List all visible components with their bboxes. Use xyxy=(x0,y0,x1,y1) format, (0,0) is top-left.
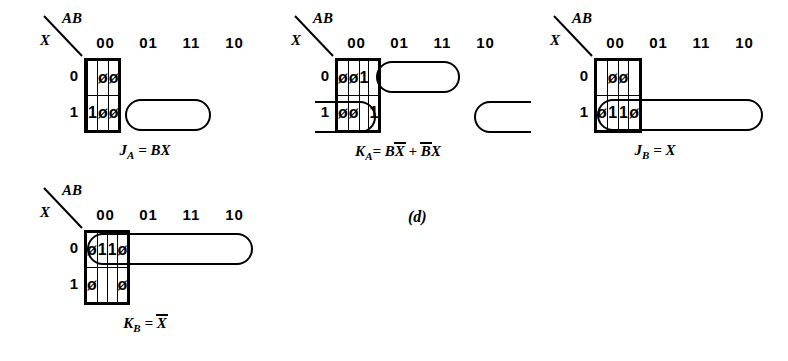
col-header-11: 11 xyxy=(421,34,464,51)
cell-r1c3[interactable]: 1 xyxy=(369,96,379,131)
col-header-00: 00 xyxy=(594,34,637,51)
cell-r1c1[interactable]: 1 xyxy=(88,96,98,131)
caption-bbar: B xyxy=(421,142,431,160)
row-header-0: 0 xyxy=(317,58,333,94)
cell-r0c0[interactable]: ø xyxy=(87,233,98,268)
row-header-1: 1 xyxy=(66,266,82,302)
row-headers-jb: 0 1 xyxy=(576,58,592,130)
cell-r0c3[interactable]: ø xyxy=(117,233,128,268)
caption-expression: = X xyxy=(649,142,675,158)
axis-corner-ja: AB X xyxy=(40,14,84,58)
caption-symbol: K xyxy=(123,315,133,331)
kmap-grid-ja: ø ø 1 ø ø xyxy=(84,58,121,133)
row-header-0: 0 xyxy=(576,58,592,94)
axis-label-ab: AB xyxy=(313,10,333,27)
cell-r0c2[interactable]: ø xyxy=(618,61,629,96)
row-header-1: 1 xyxy=(576,94,592,130)
caption-part-eq: = xyxy=(141,315,157,331)
cell-r1c0[interactable]: ø xyxy=(338,96,349,131)
col-header-11: 11 xyxy=(170,34,213,51)
caption-xbar: X xyxy=(157,314,167,332)
kmap-row: ø ø xyxy=(597,61,640,96)
cell-r0c1[interactable]: 1 xyxy=(97,233,107,268)
column-headers-ja: 00 01 11 10 xyxy=(84,34,256,51)
column-headers-jb: 00 01 11 10 xyxy=(594,34,766,51)
kmap-row: ø ø xyxy=(87,61,119,96)
kmap-row: 1 ø ø xyxy=(87,96,119,131)
cell-r1c2[interactable]: ø xyxy=(97,96,108,131)
kmap-row: ø 1 1 ø xyxy=(87,233,128,268)
cell-r0c2[interactable]: 1 xyxy=(107,233,117,268)
caption-subscript: B xyxy=(133,322,140,334)
cell-r1c2[interactable]: 1 xyxy=(618,96,629,131)
cell-r1c1[interactable]: ø xyxy=(348,96,359,131)
row-headers-ka: 0 1 xyxy=(317,58,333,130)
cell-r1c3[interactable]: ø xyxy=(117,268,128,303)
axis-label-x: X xyxy=(291,32,301,49)
caption-ja: JA = BX xyxy=(70,142,220,161)
cell-r1c2[interactable] xyxy=(107,268,117,303)
cell-r0c3[interactable] xyxy=(369,61,379,96)
caption-part-eq: = B xyxy=(372,143,394,159)
axis-label-x: X xyxy=(550,32,560,49)
col-header-01: 01 xyxy=(127,34,170,51)
col-header-01: 01 xyxy=(637,34,680,51)
column-headers-kb: 00 01 11 10 xyxy=(84,206,256,223)
group-loop-bbarx-right xyxy=(475,102,531,132)
cell-r1c3[interactable]: ø xyxy=(629,96,640,131)
kmap-row: ø 1 1 ø xyxy=(597,96,640,131)
cell-r0c3[interactable] xyxy=(629,61,640,96)
row-header-1: 1 xyxy=(66,94,82,130)
kmap-grid-kb: ø 1 1 ø ø ø xyxy=(84,230,130,305)
kmap-row: ø ø 1 xyxy=(338,96,379,131)
cell-r0c3[interactable]: ø xyxy=(108,61,119,96)
caption-xbar-1: X xyxy=(395,142,405,160)
col-header-10: 10 xyxy=(464,34,507,51)
axis-corner-ka: AB X xyxy=(291,14,335,58)
col-header-01: 01 xyxy=(378,34,421,51)
col-header-10: 10 xyxy=(213,34,256,51)
cell-r1c1[interactable]: 1 xyxy=(607,96,618,131)
kmap-grid-ka: ø ø 1 ø ø 1 xyxy=(335,58,381,133)
caption-expression: = BX xyxy=(134,142,170,158)
cell-r1c0[interactable]: ø xyxy=(597,96,608,131)
row-headers-kb: 0 1 xyxy=(66,230,82,302)
caption-ka: KA= BX + BX xyxy=(303,142,493,162)
axis-label-ab: AB xyxy=(62,182,82,199)
axis-label-ab: AB xyxy=(572,10,592,27)
caption-symbol: K xyxy=(355,143,365,159)
cell-r0c2[interactable]: 1 xyxy=(359,61,369,96)
col-header-01: 01 xyxy=(127,206,170,223)
cell-r0c2[interactable]: ø xyxy=(97,61,108,96)
group-loop-bx xyxy=(126,100,210,130)
caption-symbol: J xyxy=(635,142,643,158)
cell-r0c0[interactable]: ø xyxy=(338,61,349,96)
kmap-row: ø ø xyxy=(87,268,128,303)
col-header-11: 11 xyxy=(170,206,213,223)
col-header-00: 00 xyxy=(84,206,127,223)
cell-r1c2[interactable] xyxy=(359,96,369,131)
row-header-0: 0 xyxy=(66,230,82,266)
cell-r0c1[interactable] xyxy=(88,61,98,96)
caption-kb: KB = X xyxy=(70,314,220,334)
cell-r0c1[interactable]: ø xyxy=(607,61,618,96)
col-header-10: 10 xyxy=(723,34,766,51)
cell-r0c0[interactable] xyxy=(597,61,608,96)
panel-label: (d) xyxy=(408,208,427,226)
axis-corner-jb: AB X xyxy=(550,14,594,58)
col-header-10: 10 xyxy=(213,206,256,223)
caption-jb: JB = X xyxy=(580,142,730,161)
row-header-1: 1 xyxy=(317,94,333,130)
kmap-grid-jb: ø ø ø 1 1 ø xyxy=(594,58,642,133)
col-header-00: 00 xyxy=(84,34,127,51)
cell-r1c0[interactable]: ø xyxy=(87,268,98,303)
kmap-row: ø ø 1 xyxy=(338,61,379,96)
cell-r1c1[interactable] xyxy=(97,268,107,303)
row-header-0: 0 xyxy=(66,58,82,94)
group-loop-bxbar xyxy=(377,62,459,92)
cell-r0c1[interactable]: ø xyxy=(348,61,359,96)
column-headers-ka: 00 01 11 10 xyxy=(335,34,507,51)
axis-label-x: X xyxy=(40,32,50,49)
axis-label-ab: AB xyxy=(62,10,82,27)
cell-r1c3[interactable]: ø xyxy=(108,96,119,131)
